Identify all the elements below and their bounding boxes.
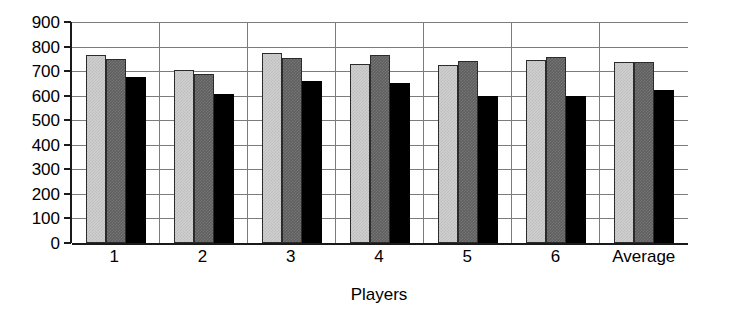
x-tick-label: 2 [158, 248, 246, 265]
bar-groups [72, 22, 688, 243]
x-tick-label: 3 [247, 248, 335, 265]
bar-group [336, 22, 424, 243]
bar-set [614, 22, 674, 243]
y-tick-label-700: 700 [2, 63, 60, 80]
x-axis-labels: 123456Average [70, 248, 688, 265]
y-tick-600 [64, 95, 71, 97]
y-tick-800 [64, 46, 71, 48]
bar [214, 94, 234, 243]
y-tick-700 [64, 70, 71, 72]
y-tick-0 [64, 242, 71, 244]
y-tick-500 [64, 119, 71, 121]
y-tick-label-300: 300 [2, 161, 60, 178]
bar [390, 83, 410, 243]
x-tick-label: Average [600, 248, 688, 265]
y-tick-200 [64, 193, 71, 195]
x-tick-label: 4 [335, 248, 423, 265]
y-tick-label-100: 100 [2, 210, 60, 227]
bar-set [262, 22, 322, 243]
bar [282, 58, 302, 243]
bar [302, 81, 322, 243]
bar [566, 96, 586, 243]
bar-set [174, 22, 234, 243]
bar-set [350, 22, 410, 243]
plot-area [70, 22, 688, 243]
bar-group [72, 22, 160, 243]
bar-set [438, 22, 498, 243]
bar-group [248, 22, 336, 243]
bar-group [600, 22, 688, 243]
y-tick-label-0: 0 [2, 235, 60, 252]
y-tick-label-900: 900 [2, 14, 60, 31]
bar [194, 74, 214, 243]
y-tick-400 [64, 144, 71, 146]
bar [634, 62, 654, 243]
bar [478, 96, 498, 243]
bar [370, 55, 390, 243]
x-axis-title: Players [70, 286, 688, 303]
x-tick-label: 1 [70, 248, 158, 265]
bar [106, 59, 126, 243]
bar [438, 65, 458, 243]
bar-set [526, 22, 586, 243]
y-tick-900 [64, 21, 71, 23]
bar-chart: 9008007006005004003002001000 123456Avera… [0, 0, 751, 333]
bar [654, 90, 674, 243]
bar [526, 60, 546, 243]
gridline-0 [72, 243, 688, 245]
bar-group [512, 22, 600, 243]
y-tick-label-800: 800 [2, 38, 60, 55]
bar-group [424, 22, 512, 243]
x-tick-label: 5 [423, 248, 511, 265]
bar [262, 53, 282, 243]
y-tick-label-500: 500 [2, 112, 60, 129]
bar-group [160, 22, 248, 243]
bar [458, 61, 478, 243]
bar [614, 62, 634, 243]
y-tick-300 [64, 168, 71, 170]
bar [546, 57, 566, 243]
y-tick-label-200: 200 [2, 185, 60, 202]
y-tick-label-400: 400 [2, 136, 60, 153]
bar [126, 77, 146, 243]
y-tick-label-600: 600 [2, 87, 60, 104]
bar [350, 64, 370, 243]
bar-set [86, 22, 146, 243]
x-tick-label: 6 [511, 248, 599, 265]
bar [174, 70, 194, 243]
bar [86, 55, 106, 243]
y-tick-100 [64, 217, 71, 219]
